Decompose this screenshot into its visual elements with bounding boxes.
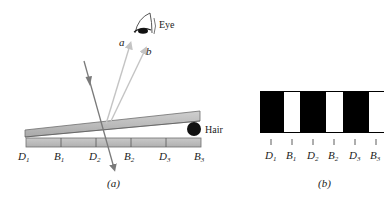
figure-a: Hair a b Eye D1 B1 D2 B2 D3 B3 (a) (17, 13, 223, 190)
hair-icon (187, 122, 201, 136)
reflected-ray-b (111, 50, 145, 121)
caption-b: (b) (318, 177, 331, 190)
svg-text:B3: B3 (194, 150, 205, 164)
svg-text:D3: D3 (158, 150, 171, 164)
svg-text:B1: B1 (286, 149, 296, 163)
svg-text:B2: B2 (328, 149, 339, 163)
thin-film-diagram: Hair a b Eye D1 B1 D2 B2 D3 B3 (a) (0, 0, 384, 205)
positions-b: D1 B1 D2 B2 D3 B3 (264, 149, 381, 163)
svg-text:D1: D1 (264, 149, 276, 163)
hair-label: Hair (205, 124, 223, 135)
svg-text:D3: D3 (348, 149, 361, 163)
bright-fringe-2 (326, 92, 343, 132)
svg-text:D2: D2 (88, 150, 101, 164)
bright-fringe-3 (369, 92, 384, 132)
bright-fringe-1 (284, 92, 300, 132)
ray-a-label: a (119, 36, 125, 48)
top-glass-plate (25, 111, 200, 137)
ray-b-label: b (146, 45, 152, 57)
svg-text:B2: B2 (124, 150, 135, 164)
svg-text:D1: D1 (17, 150, 29, 164)
bottom-glass-plate (26, 138, 201, 147)
reflected-ray-a (106, 45, 130, 124)
eye-icon (134, 13, 156, 34)
svg-text:B1: B1 (54, 150, 64, 164)
caption-a: (a) (107, 177, 120, 190)
fringe-band (260, 91, 384, 133)
svg-text:D2: D2 (306, 149, 319, 163)
fringe-ticks (271, 139, 376, 145)
svg-text:B3: B3 (370, 149, 381, 163)
figure-b: D1 B1 D2 B2 D3 B3 (b) (260, 91, 384, 190)
eye-label: Eye (159, 19, 175, 30)
